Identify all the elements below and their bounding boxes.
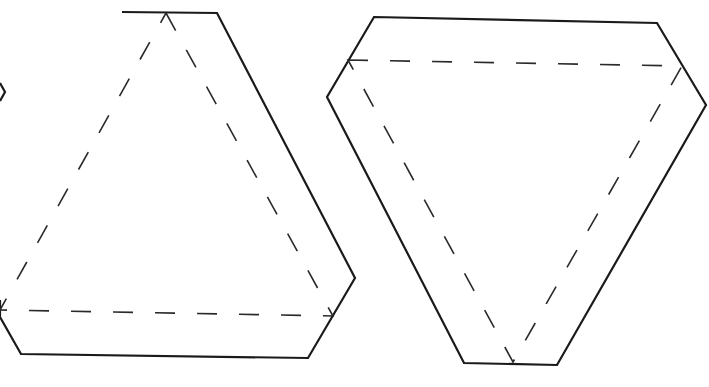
diagram-canvas — [0, 0, 709, 387]
inverted-fold-triangle — [348, 60, 682, 362]
upright-fold-triangle — [0, 13, 333, 316]
partial-hexagon-edge — [0, 83, 5, 101]
inverted-hexagon-outline — [327, 17, 706, 365]
upright-hexagon-outline — [0, 12, 355, 358]
